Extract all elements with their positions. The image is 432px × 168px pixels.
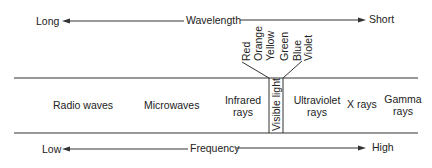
region-infrared-line2: rays — [218, 106, 268, 118]
frequency-high-label: High — [372, 141, 394, 153]
color-label-violet: Violet — [302, 35, 314, 61]
frequency-title: Frequency — [190, 142, 240, 154]
region-x-rays: X rays — [347, 98, 377, 110]
arrow-left-icon — [62, 19, 70, 24]
region-gamma-line2: rays — [381, 105, 425, 117]
funnel-right — [283, 61, 302, 78]
region-ultraviolet: Ultraviolet rays — [282, 94, 352, 118]
arrow-right-icon — [358, 146, 366, 151]
region-ultraviolet-line1: Ultraviolet — [282, 94, 352, 106]
color-label-green: Green — [278, 32, 290, 61]
wavelength-title: Wavelength — [186, 14, 241, 26]
frequency-low-label: Low — [42, 143, 61, 155]
color-label-orange: Orange — [252, 26, 264, 61]
region-radio-waves: Radio waves — [53, 99, 113, 111]
arrow-left-icon — [62, 147, 70, 152]
region-ultraviolet-line2: rays — [282, 106, 352, 118]
wavelength-long-label: Long — [36, 15, 59, 27]
region-visible-light: Visible light — [270, 78, 282, 131]
region-infrared: Infrared rays — [218, 94, 268, 118]
wavelength-short-label: Short — [369, 13, 394, 25]
color-label-red: Red — [240, 42, 252, 61]
region-gamma-rays: Gamma rays — [381, 93, 425, 117]
arrow-right-icon — [358, 18, 366, 23]
color-label-yellow: Yellow — [264, 31, 276, 61]
region-microwaves: Microwaves — [144, 99, 199, 111]
region-infrared-line1: Infrared — [218, 94, 268, 106]
region-gamma-line1: Gamma — [381, 93, 425, 105]
funnel-left — [242, 62, 269, 78]
